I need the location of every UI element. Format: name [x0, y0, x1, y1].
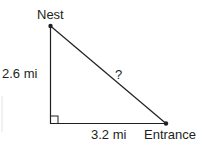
- entrance-point: [164, 121, 168, 125]
- hypotenuse-label: ?: [115, 68, 122, 81]
- entrance-label: Entrance: [144, 128, 196, 141]
- horizontal-side-label: 3.2 mi: [91, 128, 126, 141]
- right-angle-marker: [51, 116, 59, 124]
- hypotenuse: [51, 26, 167, 124]
- nest-point: [48, 24, 52, 28]
- vertical-side-label: 2.6 mi: [2, 67, 37, 80]
- nest-label: Nest: [37, 8, 64, 21]
